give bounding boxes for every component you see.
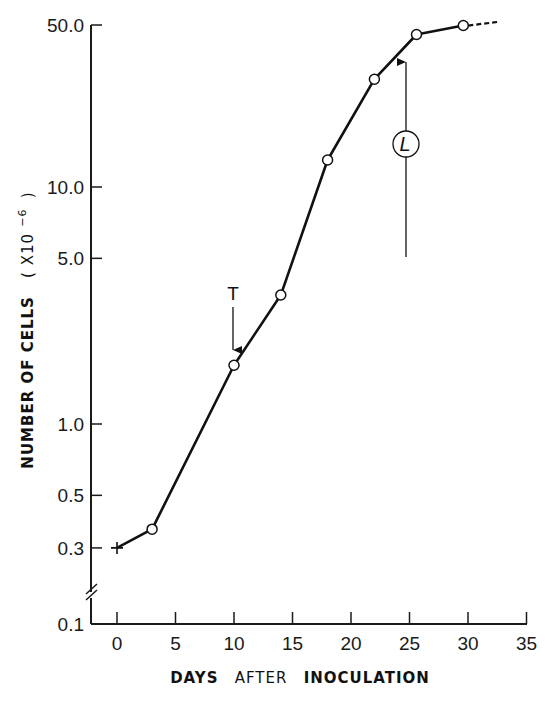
annotation-l-label: L: [399, 133, 410, 155]
x-tick-label: 30: [457, 633, 478, 654]
svg-text:NUMBER OF CELLS ( X10: NUMBER OF CELLS ( X10 −6 ): [12, 191, 37, 468]
open-circle-marker-icon: [369, 74, 379, 84]
x-tick-label: 15: [282, 633, 303, 654]
x-axis-title-word-3: INOCULATION: [304, 669, 430, 687]
x-tick-label: 5: [170, 633, 181, 654]
x-tick-label: 10: [223, 633, 244, 654]
x-tick-label: 0: [112, 633, 123, 654]
plus-marker-icon: [111, 542, 123, 554]
y-tick-label: 0.5: [58, 485, 84, 506]
x-axis-title-word-1: DAYS: [170, 669, 218, 687]
annotation-t-label: T: [227, 283, 239, 304]
x-tick-label: 20: [340, 633, 361, 654]
data-series: [111, 21, 497, 554]
y-axis-title-main: NUMBER OF CELLS: [19, 296, 37, 469]
open-circle-marker-icon: [458, 21, 468, 31]
open-circle-marker-icon: [412, 30, 422, 40]
y-axis-title: NUMBER OF CELLS ( X10 −6 ): [12, 191, 37, 468]
x-axis-title-word-2: AFTER: [235, 669, 288, 687]
y-tick-label: 5.0: [58, 248, 84, 269]
y-tick-label: 0.3: [58, 538, 84, 559]
dashed-extension: [468, 22, 497, 26]
x-axis-title: DAYS AFTER INOCULATION: [170, 669, 430, 687]
y-tick-label: 50.0: [47, 15, 84, 36]
y-axis-ticks: 0.10.30.51.05.010.050.0: [47, 15, 102, 635]
open-circle-marker-icon: [323, 155, 333, 165]
y-axis-title-exponent: −6: [16, 208, 29, 226]
x-axis-ticks: 05101520253035: [112, 612, 537, 654]
growth-line: [117, 26, 463, 548]
growth-curve-chart: 0.10.30.51.05.010.050.0 05101520253035 N…: [0, 0, 545, 701]
y-axis-title-unit: ( X10: [19, 233, 37, 278]
y-tick-label: 1.0: [58, 414, 84, 435]
x-tick-label: 25: [399, 633, 420, 654]
y-axis-title-close: ): [19, 191, 37, 198]
axes: 0.10.30.51.05.010.050.0 05101520253035: [47, 15, 537, 654]
y-tick-label: 10.0: [47, 177, 84, 198]
annotations: TL: [227, 62, 419, 350]
y-tick-label: 0.1: [58, 614, 84, 635]
open-circle-marker-icon: [276, 290, 286, 300]
open-circle-marker-icon: [229, 360, 239, 370]
x-tick-label: 35: [516, 633, 537, 654]
open-circle-marker-icon: [147, 524, 157, 534]
